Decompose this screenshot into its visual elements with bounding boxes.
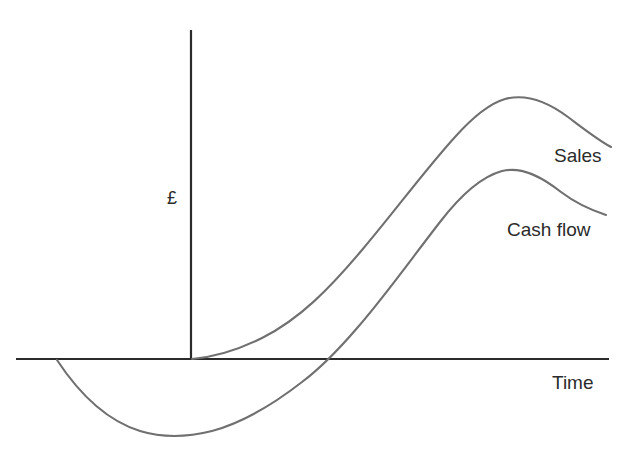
cash-flow-curve [57, 170, 606, 436]
y-axis-label: £ [167, 188, 177, 208]
series-label-cash-flow: Cash flow [507, 220, 590, 240]
x-axis-label: Time [552, 373, 594, 393]
series-label-sales: Sales [554, 146, 602, 166]
chart-figure: £ Sales Cash flow Time [0, 0, 633, 451]
